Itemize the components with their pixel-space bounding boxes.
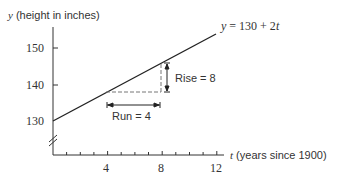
x-ticks <box>67 151 217 155</box>
y-axis-label-text: (height in inches) <box>13 9 100 21</box>
y-tick-150: 150 <box>26 41 44 55</box>
x-tick-8: 8 <box>158 161 164 175</box>
y-axis-label: y (height in inches) <box>7 9 100 21</box>
y-tick-130: 130 <box>26 114 44 128</box>
x-axis-label-text: (years since 1900) <box>233 149 327 161</box>
rise-label: Rise = 8 <box>175 72 216 84</box>
x-axis-label: t (years since 1900) <box>230 149 327 161</box>
rise-arrow-icon <box>164 63 170 92</box>
equation-label: y = 130 + 2t <box>220 19 280 33</box>
y-tick-140: 140 <box>26 78 44 92</box>
run-label: Run = 4 <box>112 110 151 122</box>
y-ticks <box>53 48 58 85</box>
x-tick-4: 4 <box>103 161 109 175</box>
run-arrow-icon <box>107 102 160 108</box>
equation-text: = 130 + 2 <box>226 19 276 33</box>
chart-canvas: 150 140 130 4 8 12 y (height in inches) … <box>0 0 338 186</box>
x-tick-12: 12 <box>210 161 222 175</box>
equation-var-t: t <box>276 19 280 33</box>
